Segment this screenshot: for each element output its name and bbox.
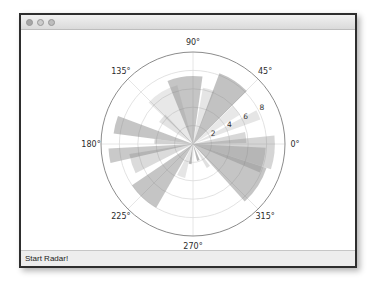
angle-label: 90° bbox=[186, 38, 200, 47]
app-window: 24680°45°90°135°180°225°270°315° Start R… bbox=[19, 13, 357, 268]
zoom-button[interactable] bbox=[48, 19, 55, 26]
radial-tick-label: 6 bbox=[243, 112, 248, 121]
radial-tick-label: 8 bbox=[260, 103, 265, 112]
angle-label: 315° bbox=[255, 212, 274, 221]
angle-label: 0° bbox=[290, 140, 299, 149]
chart-area: 24680°45°90°135°180°225°270°315° bbox=[21, 30, 355, 250]
polar-chart: 24680°45°90°135°180°225°270°315° bbox=[21, 30, 355, 250]
radial-tick-label: 2 bbox=[211, 129, 216, 138]
close-button[interactable] bbox=[26, 19, 33, 26]
title-bar[interactable] bbox=[21, 15, 355, 30]
start-radar-button[interactable]: Start Radar! bbox=[21, 250, 355, 266]
angle-label: 135° bbox=[111, 67, 130, 76]
angle-label: 180° bbox=[81, 140, 100, 149]
radial-tick-label: 4 bbox=[227, 120, 232, 129]
angle-label: 225° bbox=[111, 212, 130, 221]
angle-label: 45° bbox=[258, 67, 272, 76]
minimize-button[interactable] bbox=[37, 19, 44, 26]
angle-label: 270° bbox=[183, 242, 202, 251]
